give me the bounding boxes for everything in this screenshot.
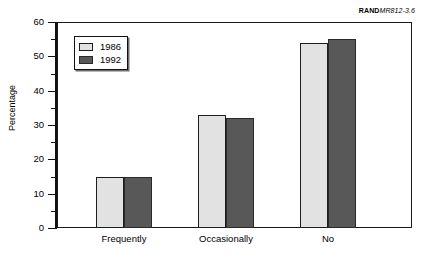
y-tick-label: 30 — [10, 120, 44, 130]
source-tag-document-id: MR812-3.6 — [379, 7, 415, 14]
y-tick-minor — [51, 108, 56, 109]
y-tick-minor — [51, 74, 56, 75]
legend-item-1992: 1992 — [79, 53, 121, 66]
y-tick-major — [48, 194, 56, 195]
y-tick-label: 40 — [10, 86, 44, 96]
y-tick-major — [48, 228, 56, 229]
source-tag-brand: RAND — [359, 7, 380, 14]
legend-label-1986: 1986 — [100, 42, 121, 52]
bar-no-1986 — [300, 43, 328, 228]
y-tick-major — [48, 22, 56, 23]
bar-occasionally-1986 — [198, 115, 226, 228]
chart-figure: RANDMR812-3.6 Percentage 0102030405060 F… — [0, 0, 426, 261]
legend-label-1992: 1992 — [100, 55, 121, 65]
x-tick-label: No — [268, 234, 388, 244]
bar-frequently-1992 — [124, 177, 152, 229]
y-tick-minor — [51, 142, 56, 143]
y-tick-minor — [51, 211, 56, 212]
y-tick-minor — [51, 177, 56, 178]
bar-frequently-1986 — [96, 177, 124, 229]
y-tick-major — [48, 159, 56, 160]
y-tick-major — [48, 91, 56, 92]
legend: 1986 1992 — [74, 36, 128, 70]
y-tick-label: 0 — [10, 223, 44, 233]
legend-swatch-1986-icon — [79, 43, 93, 51]
y-axis-title: Percentage — [7, 68, 17, 148]
y-tick-major — [48, 56, 56, 57]
bar-no-1992 — [328, 39, 356, 228]
legend-swatch-1992-icon — [79, 56, 93, 64]
legend-item-1986: 1986 — [79, 40, 121, 53]
y-tick-label: 20 — [10, 154, 44, 164]
y-tick-label: 10 — [10, 189, 44, 199]
y-tick-major — [48, 125, 56, 126]
bar-occasionally-1992 — [226, 118, 254, 228]
y-tick-label: 60 — [10, 17, 44, 27]
y-tick-label: 50 — [10, 51, 44, 61]
source-tag: RANDMR812-3.6 — [359, 7, 415, 14]
y-tick-minor — [51, 39, 56, 40]
